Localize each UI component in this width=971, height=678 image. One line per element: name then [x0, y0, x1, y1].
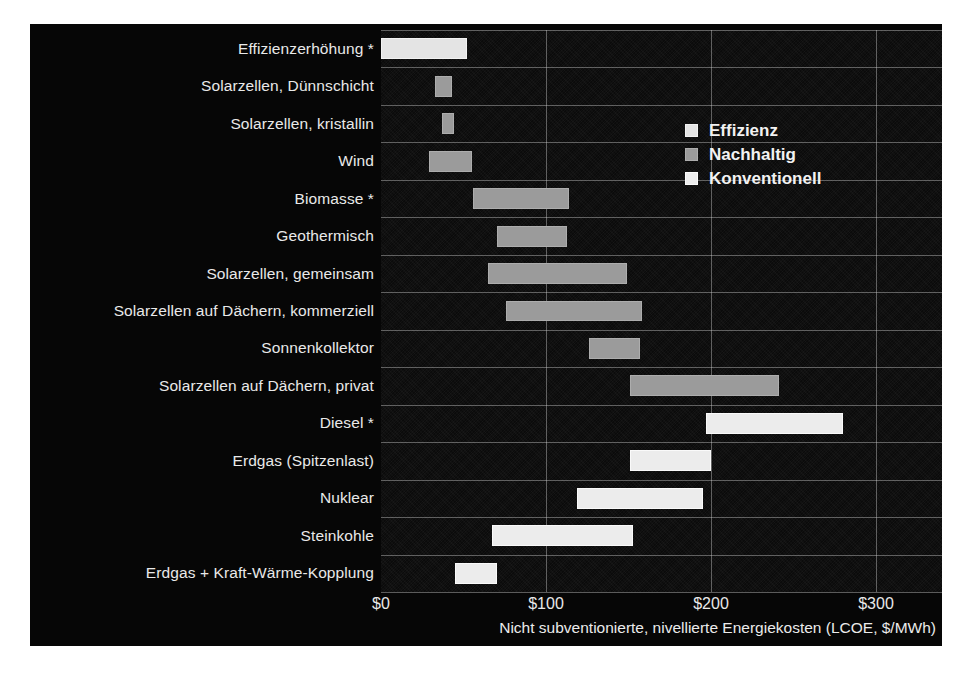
category-label: Effizienzerhöhung *	[238, 41, 374, 57]
bar-3	[442, 113, 454, 134]
legend-item-effizienz[interactable]: Effizienz	[685, 118, 915, 142]
bar-13	[577, 488, 702, 509]
bar-12	[630, 450, 711, 471]
category-label: Solarzellen, kristallin	[230, 116, 374, 132]
bar-6	[497, 226, 568, 247]
bar-9	[589, 338, 640, 359]
legend-item-konventionell[interactable]: Konventionell	[685, 166, 915, 190]
bar-2	[435, 76, 452, 97]
gridline-horizontal	[381, 480, 942, 481]
category-label: Nuklear	[320, 490, 374, 506]
gridline-horizontal	[381, 405, 942, 406]
gridline-horizontal	[381, 30, 942, 31]
plot-area	[381, 30, 942, 592]
category-label: Diesel *	[320, 415, 374, 431]
gridline-horizontal	[381, 255, 942, 256]
x-axis-ticks: $0$100$200$300	[381, 596, 942, 620]
category-label: Solarzellen, Dünnschicht	[201, 78, 374, 94]
gridline-horizontal	[381, 217, 942, 218]
category-label: Erdgas + Kraft-Wärme-Kopplung	[146, 565, 374, 581]
gridline-horizontal	[381, 442, 942, 443]
bar-11	[706, 413, 843, 434]
bar-10	[630, 375, 779, 396]
category-axis: Effizienzerhöhung *Solarzellen, Dünnschi…	[30, 30, 374, 592]
x-tick-label: $0	[372, 596, 390, 612]
x-tick-label: $300	[858, 596, 894, 612]
gridline-vertical	[876, 30, 877, 592]
legend-item-nachhaltig[interactable]: Nachhaltig	[685, 142, 915, 166]
x-tick-label: $100	[528, 596, 564, 612]
gridline-horizontal	[381, 592, 942, 593]
x-axis-title: Nicht subventionierte, nivellierte Energ…	[30, 620, 936, 636]
bar-8	[506, 301, 641, 322]
gridline-horizontal	[381, 367, 942, 368]
bar-15	[455, 563, 496, 584]
bar-5	[473, 188, 569, 209]
x-tick-label: $200	[693, 596, 729, 612]
category-label: Erdgas (Spitzenlast)	[232, 453, 374, 469]
chart-frame: Effizienzerhöhung *Solarzellen, Dünnschi…	[30, 24, 942, 646]
category-label: Geothermisch	[276, 228, 374, 244]
gridline-vertical	[711, 30, 712, 592]
bar-14	[492, 525, 634, 546]
bar-1	[381, 38, 467, 59]
category-label: Solarzellen auf Dächern, kommerziell	[114, 303, 374, 319]
category-label: Steinkohle	[301, 528, 374, 544]
gridline-horizontal	[381, 292, 942, 293]
gridline-horizontal	[381, 555, 942, 556]
legend-swatch-icon	[685, 148, 698, 161]
category-label: Wind	[338, 153, 374, 169]
category-label: Biomasse *	[295, 191, 374, 207]
bar-7	[488, 263, 627, 284]
chart-screenshot: Effizienzerhöhung *Solarzellen, Dünnschi…	[0, 0, 971, 678]
legend-label: Nachhaltig	[709, 146, 796, 163]
category-label: Solarzellen, gemeinsam	[206, 266, 374, 282]
gridline-horizontal	[381, 67, 942, 68]
category-label: Solarzellen auf Dächern, privat	[159, 378, 374, 394]
category-label: Sonnenkollektor	[261, 340, 374, 356]
chart-legend: EffizienzNachhaltigKonventionell	[685, 118, 915, 190]
legend-swatch-icon	[685, 172, 698, 185]
legend-label: Konventionell	[709, 170, 821, 187]
gridline-horizontal	[381, 330, 942, 331]
legend-label: Effizienz	[709, 122, 778, 139]
legend-swatch-icon	[685, 124, 698, 137]
gridline-horizontal	[381, 105, 942, 106]
bar-4	[429, 151, 472, 172]
gridline-horizontal	[381, 517, 942, 518]
